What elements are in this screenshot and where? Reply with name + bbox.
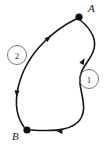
arrowhead-lower-left xyxy=(14,90,20,97)
path-label-1-text: 1 xyxy=(87,75,92,85)
point-b-label: B xyxy=(12,130,19,142)
curve-path-1 xyxy=(31,19,95,131)
point-b-dot xyxy=(23,126,30,133)
curve-diagram-svg: A B 1 2 xyxy=(0,0,110,146)
path-label-2-text: 2 xyxy=(15,51,20,61)
path-label-1: 1 xyxy=(80,70,99,89)
point-a-dot xyxy=(75,13,82,20)
point-a-label: A xyxy=(87,2,95,14)
curve-path-2 xyxy=(16,19,76,127)
path-label-2: 2 xyxy=(8,46,27,65)
figure-canvas: A B 1 2 xyxy=(0,0,110,146)
